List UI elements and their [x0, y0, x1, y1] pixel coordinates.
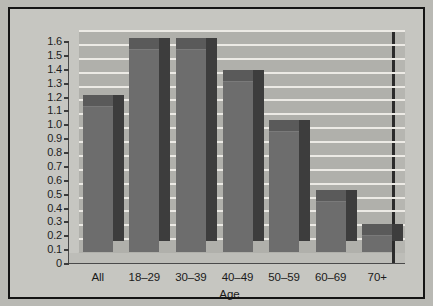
y-tick-label: 1.0	[36, 119, 62, 130]
y-tick-mark	[64, 97, 69, 99]
y-tick-label: 0.3	[36, 216, 62, 227]
bar-top-slab	[316, 190, 346, 201]
bar-side-face	[159, 38, 170, 241]
gridline	[79, 30, 405, 32]
y-tick-label: 1.4	[36, 64, 62, 75]
x-axis-label-text: Age	[219, 288, 239, 300]
bar-front-face	[316, 201, 346, 252]
y-tick-label: 0.9	[36, 133, 62, 144]
y-tick-label: 1.1	[36, 105, 62, 116]
y-tick-mark	[64, 152, 69, 154]
gridline	[79, 44, 405, 46]
plot-floor-corner	[68, 252, 79, 263]
y-tick-label: 0	[36, 258, 62, 269]
y-tick-mark	[64, 208, 69, 210]
bar[interactable]	[362, 224, 403, 252]
y-tick-mark	[64, 69, 69, 71]
y-tick-mark	[64, 110, 69, 112]
y-tick-mark	[64, 180, 69, 182]
y-tick-label: 0.2	[36, 230, 62, 241]
bar-top-slab	[362, 224, 392, 235]
chart-frame: Frequency of sexual intercourse per week…	[8, 7, 425, 299]
figure-container: Frequency of sexual intercourse per week…	[0, 0, 433, 306]
y-tick-mark	[64, 166, 69, 168]
y-tick-label: 0.6	[36, 175, 62, 186]
x-tick-label: 60–69	[308, 271, 354, 283]
y-tick-label: 1.5	[36, 50, 62, 61]
bar-top-slab	[129, 38, 159, 49]
x-tick-label: 50–59	[261, 271, 307, 283]
y-tick-label: 0.4	[36, 203, 62, 214]
y-tick-label: 0.5	[36, 189, 62, 200]
y-tick-mark	[64, 83, 69, 85]
bar-top-slab	[83, 95, 113, 106]
x-tick-label: 30–39	[168, 271, 214, 283]
bar-front-face	[176, 49, 206, 252]
y-tick-label: 1.3	[36, 78, 62, 89]
bar-top-slab	[176, 38, 206, 49]
y-tick-mark	[64, 55, 69, 57]
x-tick-label: 40–49	[215, 271, 261, 283]
bar-side-face	[392, 224, 403, 241]
y-tick-mark	[64, 249, 69, 251]
bar[interactable]	[316, 190, 357, 252]
y-tick-mark	[64, 263, 69, 265]
x-tick-label: 18–29	[121, 271, 167, 283]
bar-front-face	[362, 235, 392, 252]
gridline	[79, 58, 405, 60]
bar-side-face	[113, 95, 124, 241]
y-tick-mark	[64, 194, 69, 196]
y-tick-mark	[64, 235, 69, 237]
x-tick-label: All	[75, 271, 121, 283]
bar-front-face	[83, 106, 113, 252]
x-tick-label: 70+	[354, 271, 400, 283]
bar[interactable]	[83, 95, 124, 252]
y-tick-label: 0.1	[36, 244, 62, 255]
bar[interactable]	[223, 70, 264, 252]
bar[interactable]	[129, 38, 170, 252]
bar-front-face	[129, 49, 159, 252]
bar-front-face	[223, 81, 253, 252]
bar-side-face	[346, 190, 357, 241]
bar-side-face	[206, 38, 217, 241]
bar-top-slab	[269, 120, 299, 131]
bar-top-slab	[223, 70, 253, 81]
y-tick-label: 1.2	[36, 92, 62, 103]
y-tick-label: 0.7	[36, 161, 62, 172]
y-tick-mark	[64, 221, 69, 223]
bar-side-face	[253, 70, 264, 241]
y-tick-label: 1.6	[36, 36, 62, 47]
x-axis-line	[68, 263, 405, 264]
y-tick-label: 0.8	[36, 147, 62, 158]
y-tick-mark	[64, 138, 69, 140]
bar-side-face	[299, 120, 310, 241]
bar-front-face	[269, 131, 299, 252]
bar[interactable]	[269, 120, 310, 252]
y-tick-mark	[64, 124, 69, 126]
y-tick-mark	[64, 41, 69, 43]
plot-area	[68, 31, 405, 263]
bar[interactable]	[176, 38, 217, 252]
x-axis-label: Age	[68, 288, 405, 300]
